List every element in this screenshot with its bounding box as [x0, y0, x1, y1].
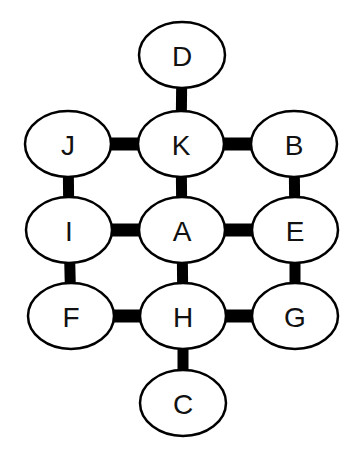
- node-a: A: [139, 197, 225, 263]
- node-label: J: [61, 130, 75, 161]
- node-d: D: [139, 22, 225, 88]
- node-e: E: [252, 197, 338, 263]
- node-label: K: [172, 130, 191, 161]
- node-label: I: [65, 216, 73, 247]
- node-f: F: [28, 283, 114, 349]
- node-label: H: [173, 302, 193, 333]
- node-b: B: [251, 111, 337, 177]
- node-label: G: [284, 302, 306, 333]
- node-label: D: [172, 41, 192, 72]
- node-label: F: [62, 302, 79, 333]
- node-label: A: [173, 216, 192, 247]
- node-c: C: [140, 370, 226, 436]
- node-label: E: [286, 216, 305, 247]
- node-label: B: [285, 130, 304, 161]
- node-h: H: [140, 283, 226, 349]
- nodes-layer: DJKBIAEFHGC: [25, 22, 338, 436]
- node-k: K: [138, 111, 224, 177]
- node-g: G: [252, 283, 338, 349]
- node-label: C: [173, 389, 193, 420]
- node-i: I: [26, 197, 112, 263]
- node-j: J: [25, 111, 111, 177]
- node-diagram: DJKBIAEFHGC: [0, 0, 362, 449]
